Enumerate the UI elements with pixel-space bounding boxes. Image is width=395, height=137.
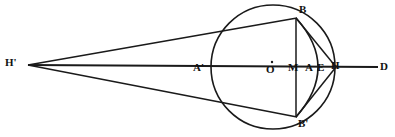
label-o: O [266, 64, 275, 75]
line-h-prime-to-b-prime [28, 65, 297, 117]
line-h-prime-to-b [28, 18, 297, 65]
label-b: B [299, 4, 306, 15]
label-h: H [331, 60, 340, 71]
geometry-figure: H' A' O M A E H D B B' [0, 0, 395, 137]
label-e: E [317, 62, 324, 73]
label-b-prime: B' [298, 118, 308, 129]
label-a-prime: A' [193, 62, 204, 73]
label-d: D [380, 61, 388, 72]
label-a: A [305, 62, 313, 73]
label-m: M [288, 62, 298, 73]
label-h-prime: H' [5, 57, 17, 68]
